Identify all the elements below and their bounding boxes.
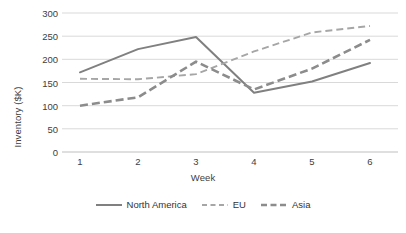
legend-swatch-north-america [96, 200, 122, 210]
series-line-eu [80, 26, 370, 79]
x-tick-label-3: 3 [184, 156, 208, 167]
x-axis-title: Week [0, 172, 406, 183]
chart-legend: North America EU Asia [0, 199, 406, 210]
legend-swatch-eu [202, 200, 228, 210]
x-tick-label-1: 1 [68, 156, 92, 167]
legend-label-eu: EU [233, 199, 246, 210]
series-line-asia [80, 40, 370, 106]
x-tick-label-6: 6 [358, 156, 382, 167]
line-chart: Inventory ($K) 300 250 200 150 100 50 0 … [0, 0, 406, 233]
x-tick-label-4: 4 [242, 156, 266, 167]
legend-label-north-america: North America [127, 199, 187, 210]
legend-item-eu[interactable]: EU [202, 199, 246, 210]
legend-swatch-asia [261, 200, 287, 210]
gridlines [62, 13, 398, 152]
series-lines [80, 26, 370, 106]
x-tick-label-2: 2 [126, 156, 150, 167]
legend-label-asia: Asia [292, 199, 310, 210]
x-tick-label-5: 5 [300, 156, 324, 167]
series-line-north-america [80, 37, 370, 93]
legend-item-asia[interactable]: Asia [261, 199, 310, 210]
legend-item-north-america[interactable]: North America [96, 199, 187, 210]
